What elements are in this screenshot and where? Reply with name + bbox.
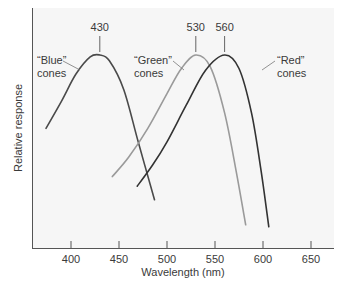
x-axis-title: Wavelength (nm): [141, 266, 224, 278]
green-cones-label: “Green”: [134, 54, 172, 66]
blue-cones-label: “Blue”: [37, 54, 67, 66]
blue-peak-label: 430: [91, 21, 109, 33]
cone-response-chart: 400450500550600650 430530560 “Blue”cones…: [0, 0, 342, 288]
red-peak-label: 560: [215, 21, 233, 33]
x-tick-label: 450: [110, 253, 128, 265]
blue-cones-label-line2: cones: [37, 67, 67, 79]
y-axis-title: Relative response: [12, 84, 24, 172]
x-tick-label: 600: [254, 253, 272, 265]
x-tick-label: 650: [302, 253, 320, 265]
red-cones-label: “Red”: [277, 54, 305, 66]
x-tick-label: 400: [62, 253, 80, 265]
x-tick-label: 500: [158, 253, 176, 265]
green-peak-label: 530: [187, 21, 205, 33]
x-tick-label: 550: [206, 253, 224, 265]
red-cones-label-line2: cones: [277, 67, 307, 79]
green-cones-label-line2: cones: [134, 67, 164, 79]
plot-area: [32, 8, 334, 248]
